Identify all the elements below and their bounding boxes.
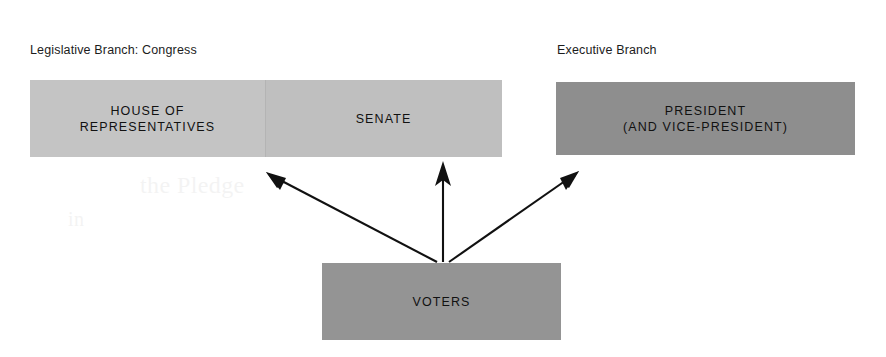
voters-to-house-arrow: [266, 172, 437, 262]
caption-legislative-branch: Legislative Branch: Congress: [30, 43, 197, 57]
ghost-text-line-1: the Pledge: [140, 172, 245, 199]
president-label: PRESIDENT (AND VICE-PRESIDENT): [623, 103, 788, 135]
caption-executive-branch: Executive Branch: [557, 43, 657, 57]
house-of-representatives-label: HOUSE OF REPRESENTATIVES: [80, 103, 216, 135]
president-box: PRESIDENT (AND VICE-PRESIDENT): [556, 82, 855, 155]
voters-to-president-arrow: [449, 171, 579, 262]
senate-label: SENATE: [356, 111, 412, 127]
voters-box: VOTERS: [322, 263, 561, 340]
congress-box: HOUSE OF REPRESENTATIVES SENATE: [30, 80, 502, 157]
government-branches-diagram: the Pledge in Legislative Branch: Congre…: [0, 0, 886, 357]
voters-label: VOTERS: [413, 294, 471, 310]
ghost-text-line-2: in: [68, 208, 84, 231]
house-of-representatives-box: HOUSE OF REPRESENTATIVES: [30, 80, 265, 157]
congress-divider: [265, 80, 266, 157]
senate-box: SENATE: [265, 80, 502, 157]
voters-to-senate-arrow: [435, 161, 451, 262]
